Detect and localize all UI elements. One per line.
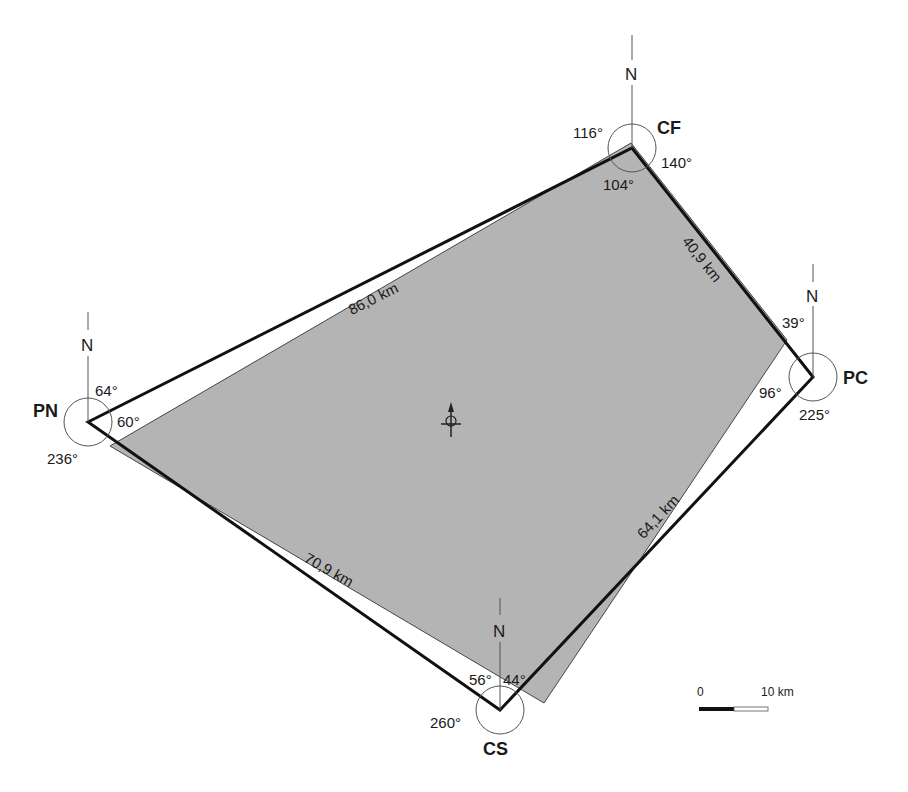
cs-angle-outer: 260° bbox=[430, 714, 461, 731]
station-pc-marker bbox=[789, 264, 837, 401]
pn-angle-outer: 236° bbox=[47, 450, 78, 467]
scale-segment-black bbox=[699, 707, 734, 711]
cf-angle-right: 140° bbox=[661, 154, 692, 171]
gray-region-polygon bbox=[110, 143, 787, 703]
pc-angle-inner: 96° bbox=[759, 384, 782, 401]
triangulation-diagram: N N N N CF PN PC CS 116° 140° 104° 64° 6… bbox=[0, 0, 908, 792]
station-label-cf: CF bbox=[657, 118, 681, 138]
scale-bar: 0 10 km bbox=[697, 685, 794, 711]
scale-start-label: 0 bbox=[697, 685, 704, 699]
station-label-cs: CS bbox=[483, 739, 508, 759]
cf-angle-left: 116° bbox=[573, 124, 603, 141]
north-label-pn: N bbox=[81, 336, 93, 355]
north-label-cs: N bbox=[493, 622, 505, 641]
cs-angle-left: 56° bbox=[469, 671, 492, 688]
scale-segment-white bbox=[734, 707, 768, 711]
cs-angle-right: 44° bbox=[503, 671, 526, 688]
pn-angle-inner: 60° bbox=[117, 413, 140, 430]
pn-angle-top: 64° bbox=[95, 382, 118, 399]
station-pn-marker bbox=[64, 312, 112, 446]
pc-angle-outer: 225° bbox=[799, 406, 830, 423]
cf-angle-inner: 104° bbox=[603, 176, 634, 193]
scale-end-label: 10 km bbox=[761, 685, 794, 699]
pc-angle-top: 39° bbox=[782, 314, 805, 331]
north-label-pc: N bbox=[806, 287, 818, 306]
station-label-pn: PN bbox=[33, 401, 58, 421]
diagram-canvas: N N N N CF PN PC CS 116° 140° 104° 64° 6… bbox=[0, 0, 908, 792]
north-label-cf: N bbox=[625, 65, 637, 84]
station-label-pc: PC bbox=[843, 368, 868, 388]
